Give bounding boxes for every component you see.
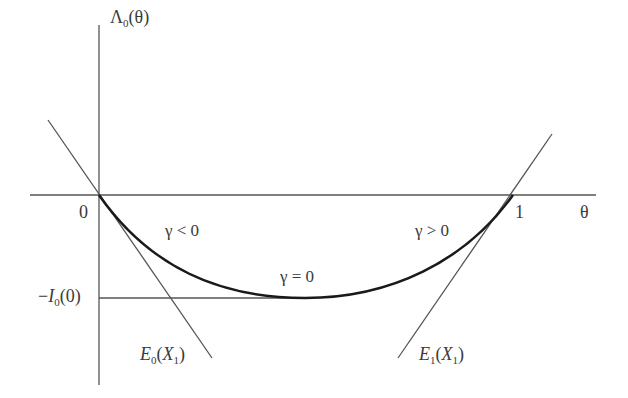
y-axis-label: Λ0(θ) <box>110 8 149 29</box>
one-label: 1 <box>515 203 524 221</box>
tangent-e0-var: X <box>163 344 174 364</box>
diagram-svg <box>0 0 628 398</box>
y-axis-label-arg: (θ) <box>129 7 150 27</box>
min-value-label: −I0(0) <box>38 287 81 308</box>
tangent-line-e1 <box>398 134 552 358</box>
tangent-e1-label: E1(X1) <box>419 345 464 366</box>
diagram-canvas: Λ0(θ) θ 0 1 −I0(0) γ < 0 γ = 0 γ > 0 E0(… <box>0 0 628 398</box>
gamma-zero-label: γ = 0 <box>280 268 314 285</box>
y-axis-label-main: Λ <box>110 7 123 27</box>
tangent-e0-close: ) <box>179 344 185 364</box>
gamma-positive-label: γ > 0 <box>415 222 449 239</box>
origin-label: 0 <box>79 203 88 221</box>
tangent-e1-main: E <box>419 344 430 364</box>
tangent-e0-main: E <box>140 344 151 364</box>
min-value-label-prefix: − <box>38 286 48 306</box>
gamma-negative-label: γ < 0 <box>165 222 199 239</box>
x-axis-label: θ <box>580 203 589 221</box>
tangent-e1-close: ) <box>458 344 464 364</box>
tangent-e0-label: E0(X1) <box>140 345 185 366</box>
min-value-label-arg: (0) <box>60 286 81 306</box>
tangent-e1-var: X <box>442 344 453 364</box>
